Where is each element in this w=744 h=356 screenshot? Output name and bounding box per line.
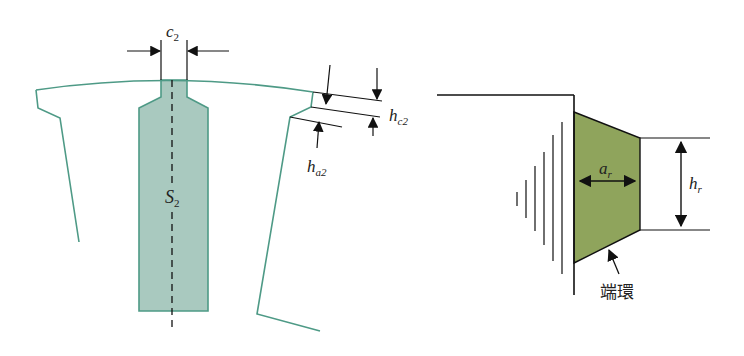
end-ring-label: 端環 [600, 282, 634, 302]
hc2-label: hc2 [389, 106, 408, 127]
rotor-slot-diagram: c2 S2 hc2 ha2 [36, 22, 408, 331]
lamination-lines [517, 122, 562, 274]
hc2-arrow-down-left-icon [326, 65, 330, 104]
hc2-extension-bottom [311, 107, 380, 117]
ha2-extension [290, 117, 342, 127]
diagram-canvas: c2 S2 hc2 ha2 ar [0, 0, 744, 356]
hr-label: hr [689, 174, 703, 195]
right-tooth-outline [257, 92, 320, 331]
ha2-arrow-up-icon [317, 122, 319, 148]
end-ring-diagram: ar hr 端環 [437, 95, 710, 302]
c2-label: c2 [166, 22, 179, 43]
end-ring-pointer-icon [609, 250, 619, 274]
end-ring-shape [574, 112, 640, 263]
hc2-extension-top [313, 92, 382, 101]
left-tooth-outline [36, 90, 79, 242]
ha2-label: ha2 [307, 157, 327, 178]
